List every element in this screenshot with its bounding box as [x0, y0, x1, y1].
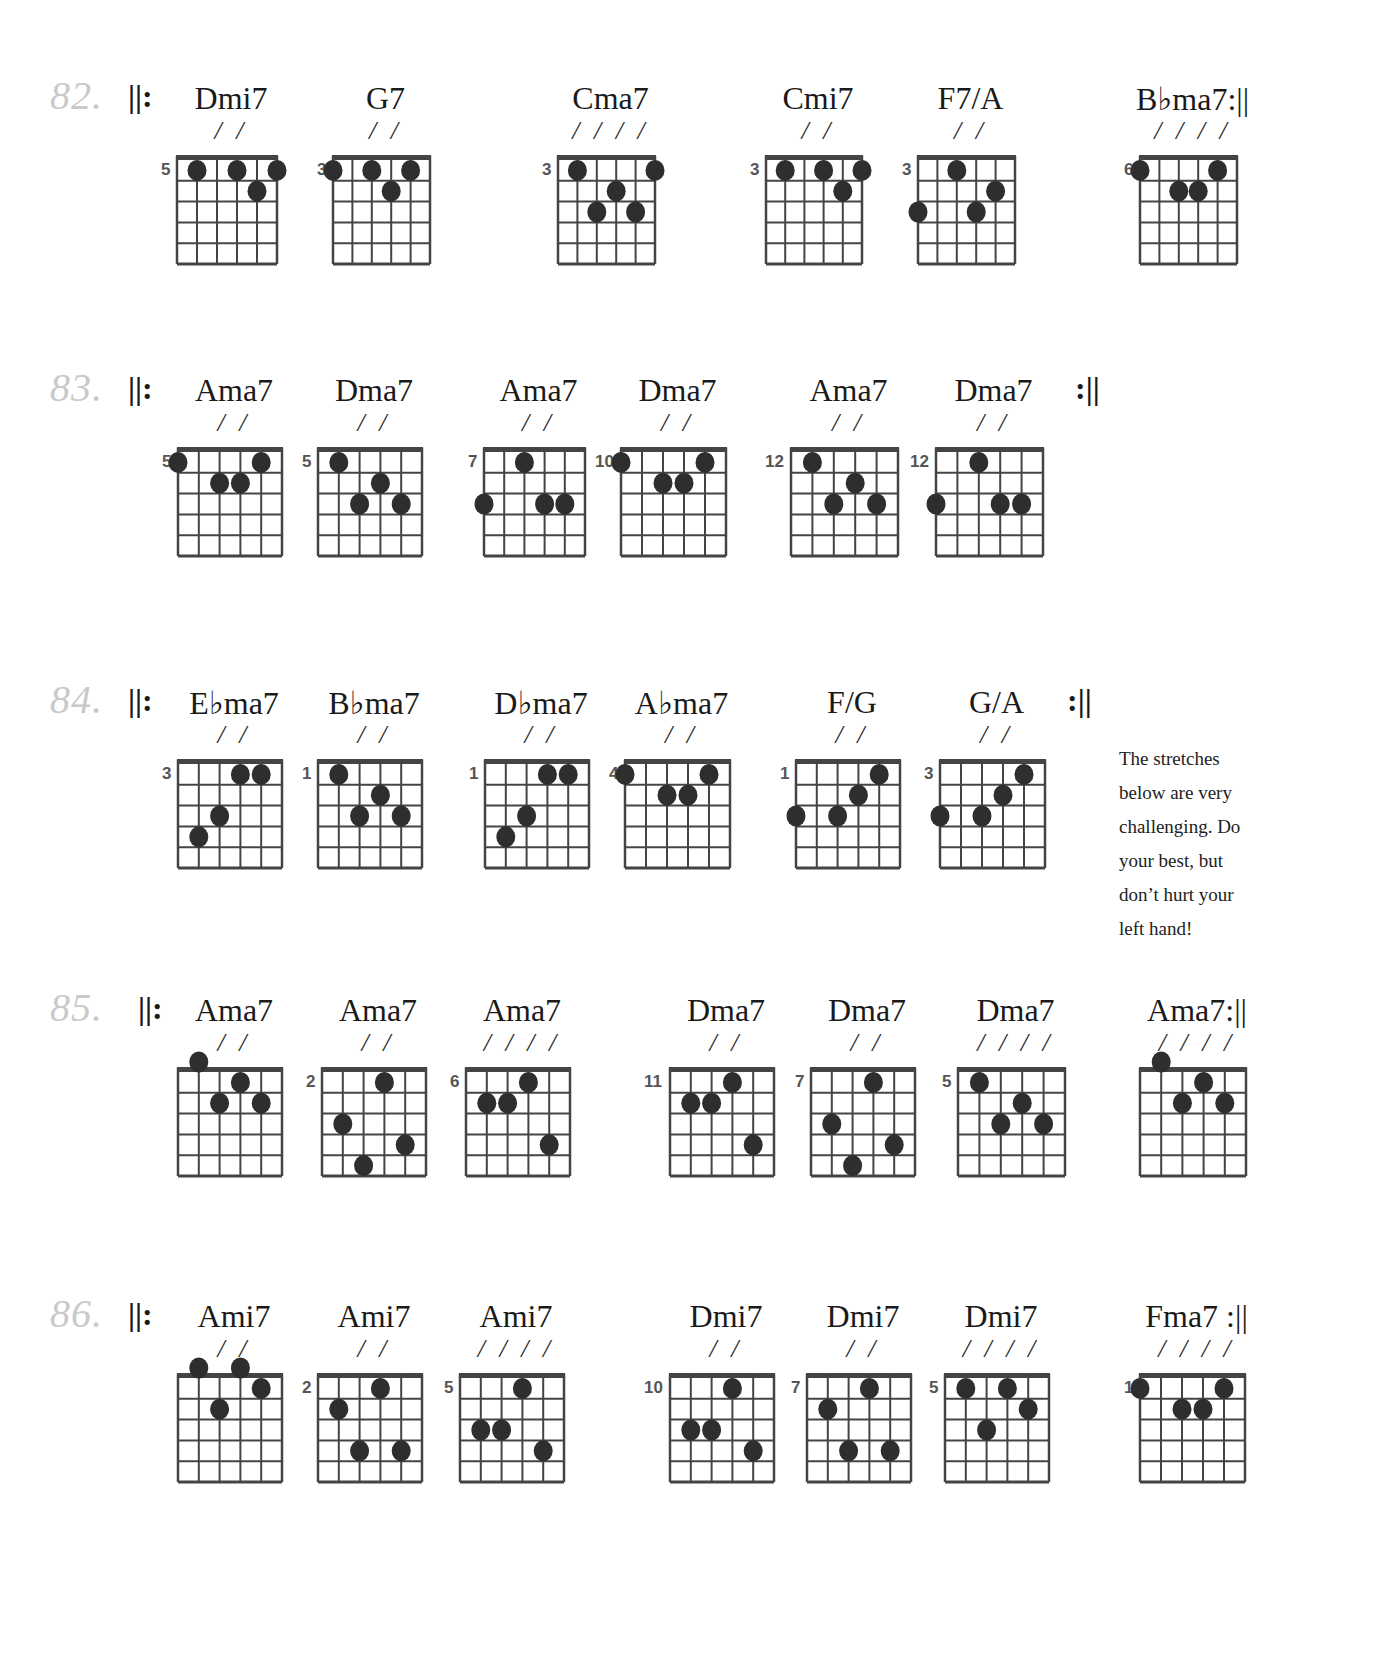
- finger-dot: [324, 160, 343, 181]
- finger-dot: [607, 181, 626, 202]
- chord-diagram: [940, 760, 1045, 868]
- finger-dot: [471, 1420, 490, 1441]
- finger-dot: [538, 764, 557, 785]
- finger-dot: [1152, 1052, 1171, 1073]
- fret-position-label: 1: [780, 764, 789, 784]
- finger-dot: [1015, 764, 1034, 785]
- rhythm-slashes: / /: [710, 1028, 743, 1058]
- finger-dot: [679, 785, 698, 806]
- finger-dot: [252, 1378, 271, 1399]
- chord-diagram: [918, 156, 1015, 264]
- finger-dot: [519, 1072, 538, 1093]
- finger-dot: [396, 1134, 415, 1155]
- stretch-warning-note: The stretchesbelow are verychallenging. …: [1119, 742, 1289, 946]
- finger-dot: [702, 1420, 721, 1441]
- fret-position-label: 5: [302, 452, 311, 472]
- chord-diagram: [625, 760, 730, 868]
- finger-dot: [1019, 1399, 1038, 1420]
- finger-dot: [189, 1358, 208, 1379]
- finger-dot: [843, 1155, 862, 1176]
- chord-diagram: [177, 156, 277, 264]
- finger-dot: [1215, 1093, 1234, 1114]
- finger-dot: [700, 764, 719, 785]
- finger-dot: [723, 1072, 742, 1093]
- chord-name: Dma7: [954, 372, 1032, 409]
- chord-name: F7/A: [938, 80, 1004, 117]
- finger-dot: [371, 473, 390, 494]
- repeat-start-sign: ||:: [138, 990, 163, 1027]
- finger-dot: [392, 1440, 411, 1461]
- rhythm-slashes: / /: [522, 408, 555, 438]
- finger-dot: [210, 1093, 229, 1114]
- finger-dot: [885, 1134, 904, 1155]
- chord-name: Fma7 :||: [1145, 1298, 1248, 1335]
- finger-dot: [744, 1134, 763, 1155]
- finger-dot: [675, 473, 694, 494]
- finger-dot: [392, 494, 411, 515]
- rhythm-slashes: / /: [218, 408, 251, 438]
- finger-dot: [822, 1114, 841, 1135]
- note-line: The stretches: [1119, 742, 1289, 776]
- finger-dot: [909, 202, 928, 223]
- finger-dot: [969, 452, 988, 473]
- finger-dot: [967, 202, 986, 223]
- finger-dot: [1013, 1093, 1032, 1114]
- fret-position-label: 11: [644, 1072, 662, 1092]
- finger-dot: [475, 494, 494, 515]
- fret-position-label: 3: [162, 764, 171, 784]
- finger-dot: [371, 785, 390, 806]
- finger-dot: [846, 473, 865, 494]
- finger-dot: [702, 1093, 721, 1114]
- finger-dot: [169, 452, 188, 473]
- finger-dot: [231, 1072, 250, 1093]
- finger-dot: [849, 785, 868, 806]
- finger-dot: [828, 806, 847, 827]
- rhythm-slashes: / / / /: [977, 1028, 1053, 1058]
- finger-dot: [1189, 181, 1208, 202]
- chord-name: Ama7:||: [1147, 992, 1247, 1029]
- finger-dot: [947, 160, 966, 181]
- rhythm-slashes: / /: [802, 116, 835, 146]
- finger-dot: [818, 1399, 837, 1420]
- chord-name: Ama7: [483, 992, 561, 1029]
- finger-dot: [587, 202, 606, 223]
- chord-name: G/A: [969, 684, 1024, 721]
- exercise-number: 82.: [50, 72, 103, 119]
- finger-dot: [515, 452, 534, 473]
- rhythm-slashes: / / / /: [478, 1334, 554, 1364]
- chord-diagram: [178, 1068, 282, 1176]
- rhythm-slashes: / /: [218, 1028, 251, 1058]
- finger-dot: [998, 1378, 1017, 1399]
- finger-dot: [392, 806, 411, 827]
- finger-dot: [210, 806, 229, 827]
- finger-dot: [853, 160, 872, 181]
- finger-dot: [744, 1440, 763, 1461]
- finger-dot: [814, 160, 833, 181]
- repeat-end-sign: :||: [1075, 370, 1100, 407]
- finger-dot: [1208, 160, 1227, 181]
- chord-name: Ama7: [499, 372, 577, 409]
- chord-name: Dma7: [687, 992, 765, 1029]
- note-line: don’t hurt your: [1119, 878, 1289, 912]
- finger-dot: [492, 1420, 511, 1441]
- chord-diagram: [807, 1374, 911, 1482]
- fret-position-label: 5: [444, 1378, 453, 1398]
- chord-diagram: [485, 760, 589, 868]
- rhythm-slashes: / /: [980, 720, 1013, 750]
- fret-position-label: 7: [791, 1378, 800, 1398]
- finger-dot: [1194, 1072, 1213, 1093]
- chord-diagram: [670, 1374, 774, 1482]
- chord-diagram: [322, 1068, 426, 1176]
- finger-dot: [496, 826, 515, 847]
- finger-dot: [881, 1440, 900, 1461]
- fret-position-label: 1: [302, 764, 311, 784]
- finger-dot: [867, 494, 886, 515]
- chord-name: Ami7: [198, 1298, 271, 1335]
- rhythm-slashes: / /: [661, 408, 694, 438]
- chord-name: Dma7: [976, 992, 1054, 1029]
- finger-dot: [252, 1093, 271, 1114]
- finger-dot: [870, 764, 889, 785]
- finger-dot: [1131, 160, 1150, 181]
- chord-diagram: [1140, 1068, 1246, 1176]
- finger-dot: [252, 452, 271, 473]
